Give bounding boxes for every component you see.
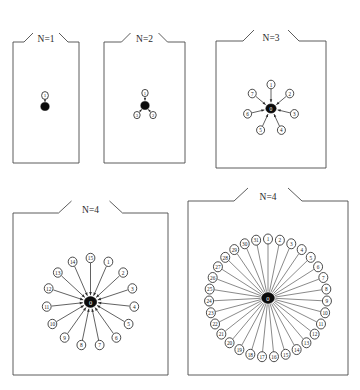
node-label: 10 bbox=[50, 321, 56, 327]
graph-edge bbox=[274, 302, 311, 331]
graph-edge bbox=[75, 266, 88, 295]
node-label: 1 bbox=[267, 236, 270, 242]
node-label: 4 bbox=[133, 304, 136, 310]
graph-node: 6 bbox=[314, 262, 323, 272]
node-label: 2 bbox=[122, 270, 125, 276]
node-label: 26 bbox=[210, 275, 216, 281]
graph-node: 1 bbox=[42, 92, 49, 100]
graph-node: 6 bbox=[112, 333, 121, 342]
graph-node: 23 bbox=[206, 308, 215, 318]
graph-node: 14 bbox=[68, 257, 77, 266]
graph-node: 5 bbox=[306, 252, 315, 262]
node-label: 7 bbox=[322, 275, 325, 281]
graph-node: 16 bbox=[269, 352, 278, 362]
graph-node: 1 bbox=[267, 80, 275, 89]
hierarchical-network-figure: N=11N=2123N=301234567N=40123456789101112… bbox=[0, 0, 360, 390]
node-label: 20 bbox=[227, 340, 233, 346]
center-node bbox=[41, 103, 49, 111]
node-label: 12 bbox=[312, 331, 318, 337]
center-node bbox=[141, 102, 149, 110]
edge-arrowhead bbox=[270, 99, 273, 102]
node-label: 13 bbox=[304, 340, 310, 346]
graph-node: 31 bbox=[252, 235, 261, 245]
node-label: 25 bbox=[207, 286, 213, 292]
graph-node: 30 bbox=[240, 239, 249, 249]
edge-arrowhead bbox=[144, 98, 146, 101]
graph-edge bbox=[82, 309, 89, 340]
graph-node: 3 bbox=[134, 111, 140, 118]
graph-edge bbox=[216, 300, 261, 312]
center-node-shape bbox=[141, 102, 149, 110]
node-label: 24 bbox=[206, 298, 212, 304]
node-label: 31 bbox=[253, 237, 259, 243]
graph-node: 4 bbox=[297, 245, 306, 255]
graph-node: 7 bbox=[248, 89, 256, 98]
node-label: 3 bbox=[293, 111, 296, 117]
graph-node: 4 bbox=[277, 126, 285, 135]
node-label: 9 bbox=[63, 335, 66, 341]
graph-node: 27 bbox=[213, 262, 222, 272]
graph-node: 10 bbox=[321, 308, 330, 318]
node-label: 2 bbox=[279, 237, 282, 243]
graph-node: 18 bbox=[246, 349, 255, 359]
graph-node: 12 bbox=[310, 329, 319, 339]
graph-node: 17 bbox=[258, 352, 267, 362]
graph-node: 13 bbox=[302, 338, 311, 348]
node-label: 5 bbox=[259, 127, 262, 133]
node-label: 29 bbox=[232, 247, 238, 253]
graph-node: 26 bbox=[208, 273, 217, 283]
node-label: 14 bbox=[294, 347, 300, 353]
edge-arrowhead bbox=[80, 298, 83, 301]
graph-edge bbox=[92, 309, 99, 340]
center-node-shape bbox=[41, 103, 49, 111]
node-label: 22 bbox=[212, 321, 218, 327]
graph-edge bbox=[215, 290, 261, 297]
node-label: 6 bbox=[317, 264, 320, 270]
edge-arrowhead bbox=[98, 298, 101, 301]
node-label: 28 bbox=[223, 255, 229, 261]
node-label: 5 bbox=[127, 321, 130, 327]
node-label: 18 bbox=[248, 352, 254, 358]
graph-edge bbox=[97, 305, 124, 321]
node-label: 2 bbox=[288, 91, 291, 97]
center-node: 0 bbox=[266, 104, 276, 113]
graph-node: 2 bbox=[286, 89, 294, 98]
node-label: 23 bbox=[208, 310, 214, 316]
edge-arrowhead bbox=[89, 292, 92, 295]
graph-node: 1 bbox=[142, 89, 148, 96]
graph-edge bbox=[225, 302, 262, 331]
graph-node: 20 bbox=[225, 338, 234, 348]
panel-n4-right: N=40123456789101112131415161718192021222… bbox=[188, 188, 348, 375]
node-label: 11 bbox=[44, 304, 49, 310]
node-label: 3 bbox=[131, 286, 134, 292]
center-node: 0 bbox=[84, 297, 96, 308]
graph-node: 8 bbox=[322, 284, 331, 294]
graph-edge bbox=[275, 279, 319, 296]
graph-edge bbox=[52, 303, 83, 306]
node-label: 9 bbox=[326, 298, 329, 304]
figure-canvas: N=11N=2123N=301234567N=40123456789101112… bbox=[0, 0, 360, 390]
node-label: 8 bbox=[80, 342, 83, 348]
node-label: 14 bbox=[70, 259, 76, 265]
graph-node: 6 bbox=[244, 110, 252, 119]
graph-node: 29 bbox=[230, 245, 239, 255]
node-label: 1 bbox=[270, 82, 273, 88]
graph-node: 3 bbox=[290, 110, 298, 119]
graph-node: 19 bbox=[235, 345, 244, 355]
graph-node: 1 bbox=[104, 257, 113, 266]
graph-edge bbox=[214, 298, 261, 300]
node-label: 10 bbox=[322, 310, 328, 316]
graph-node: 2 bbox=[150, 111, 156, 118]
graph-node: 8 bbox=[77, 340, 86, 349]
graph-edge bbox=[275, 298, 322, 300]
panel-n3: N=301234567 bbox=[216, 30, 326, 168]
graph-node: 2 bbox=[119, 268, 128, 277]
graph-node: 28 bbox=[221, 252, 230, 262]
graph-edge bbox=[275, 301, 317, 322]
node-label: 19 bbox=[237, 347, 243, 353]
panel-n1: N=11 bbox=[13, 33, 79, 163]
center-node: 0 bbox=[262, 293, 275, 304]
graph-edge bbox=[98, 303, 129, 306]
graph-node: 15 bbox=[86, 253, 95, 262]
graph-edge bbox=[94, 266, 107, 295]
